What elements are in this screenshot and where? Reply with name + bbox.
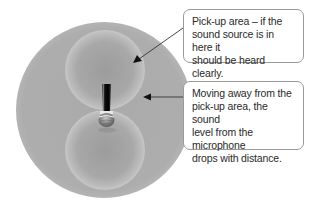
pickup-pattern-diagram: Pick-up area – if the sound source is in… bbox=[0, 0, 318, 203]
pickup-area-callout-text: Pick-up area – if the sound source is in… bbox=[192, 15, 297, 80]
pickup-area-callout: Pick-up area – if the sound source is in… bbox=[183, 9, 304, 63]
distance-falloff-callout-text: Moving away from the pick-up area, the s… bbox=[192, 87, 297, 165]
distance-falloff-callout: Moving away from the pick-up area, the s… bbox=[183, 81, 304, 150]
